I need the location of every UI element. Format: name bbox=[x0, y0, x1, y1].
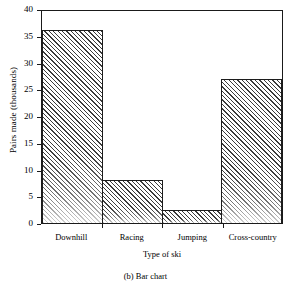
bar-racing bbox=[102, 180, 163, 223]
x-axis-tick-label: Cross-country bbox=[223, 231, 284, 243]
figure-caption: (b) Bar chart bbox=[0, 271, 291, 281]
x-axis-tick-mark bbox=[102, 224, 103, 228]
x-axis-tick-mark bbox=[223, 224, 224, 228]
plot-area bbox=[41, 10, 283, 224]
y-axis-tick-label: 20 bbox=[24, 111, 33, 122]
y-axis-tick-label: 5 bbox=[29, 191, 34, 202]
x-axis-tick-label: Downhill bbox=[41, 231, 102, 243]
y-axis-tick-label: 10 bbox=[24, 165, 33, 176]
x-axis-tick-label: Racing bbox=[102, 231, 163, 243]
bar-downhill bbox=[42, 30, 103, 223]
x-axis-tick-label: Jumping bbox=[162, 231, 223, 243]
y-axis-tick-label: 40 bbox=[24, 4, 33, 15]
y-axis-tick-mark bbox=[37, 224, 41, 225]
y-axis-title: Pairs made (thousands) bbox=[8, 35, 18, 185]
y-axis-tick-label: 25 bbox=[24, 84, 33, 95]
y-axis-tick-label: 0 bbox=[29, 218, 34, 229]
bars-container bbox=[42, 11, 282, 223]
bar-jumping bbox=[162, 210, 223, 223]
x-axis-tick-labels: DownhillRacingJumpingCross-country bbox=[41, 231, 283, 243]
y-axis-tick-label: 35 bbox=[24, 31, 33, 42]
x-axis-title: Type of ski bbox=[41, 249, 283, 259]
bar-chart-figure: Pairs made (thousands) 4035302520151050 … bbox=[0, 0, 291, 287]
x-axis-tick-mark bbox=[162, 224, 163, 228]
y-axis-tick-label: 30 bbox=[24, 58, 33, 69]
y-axis-tick-label: 15 bbox=[24, 138, 33, 149]
bar-cross-country bbox=[221, 79, 282, 223]
